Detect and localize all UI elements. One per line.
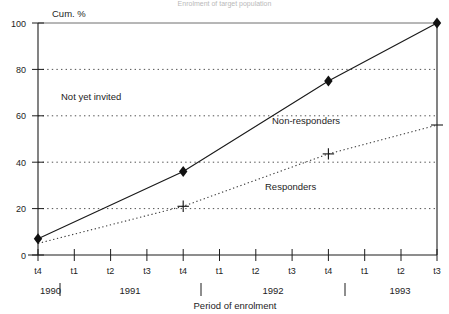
xtick-label-5: t1 xyxy=(216,266,224,276)
ytick-label-100: 100 xyxy=(11,19,26,29)
xtick-label-9: t1 xyxy=(361,266,369,276)
ytick-label-80: 80 xyxy=(16,65,26,75)
xtick-label-2: t2 xyxy=(107,266,115,276)
xtick-label-4: t4 xyxy=(179,266,187,276)
xtick-label-10: t2 xyxy=(397,266,405,276)
ytick-label-60: 60 xyxy=(16,111,26,121)
xtick-label-11: t3 xyxy=(433,266,441,276)
ytick-label-20: 20 xyxy=(16,204,26,214)
x-axis-label: Period of enrolment xyxy=(194,300,277,311)
annotation-not-yet-invited: Not yet invited xyxy=(61,91,121,102)
xtick-label-7: t3 xyxy=(288,266,296,276)
xtick-label-0: t4 xyxy=(34,266,42,276)
xtick-label-3: t3 xyxy=(143,266,151,276)
year-label-1991: 1991 xyxy=(119,285,140,296)
annotation-responders: Responders xyxy=(265,181,316,192)
enrolment-line-chart: Enrolment of target population Cum. % xyxy=(0,0,449,314)
chart-container: Enrolment of target population Cum. % xyxy=(0,0,449,314)
y-axis-label: Cum. % xyxy=(52,8,86,19)
year-label-1992: 1992 xyxy=(262,285,283,296)
xtick-label-1: t1 xyxy=(71,266,79,276)
ytick-label-40: 40 xyxy=(16,158,26,168)
ytick-label-0: 0 xyxy=(21,251,26,261)
year-label-1990: 1990 xyxy=(40,285,61,296)
annotation-non-responders: Non-responders xyxy=(272,115,340,126)
year-label-1993: 1993 xyxy=(389,285,410,296)
xtick-label-6: t2 xyxy=(252,266,260,276)
xtick-label-8: t4 xyxy=(325,266,333,276)
chart-title: Enrolment of target population xyxy=(178,0,272,8)
chart-background xyxy=(0,0,449,314)
